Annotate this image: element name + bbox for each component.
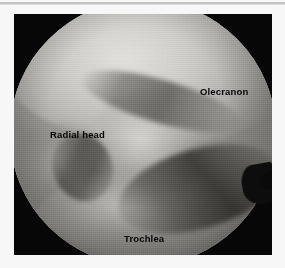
photo-frame: Olecranon Radial head Trochlea [14,14,272,255]
figure-root: Olecranon Radial head Trochlea [0,0,285,268]
label-radial-head: Radial head [50,130,105,140]
label-olecranon: Olecranon [200,87,248,97]
label-trochlea: Trochlea [124,234,164,244]
top-divider-rule-soft [0,4,285,5]
